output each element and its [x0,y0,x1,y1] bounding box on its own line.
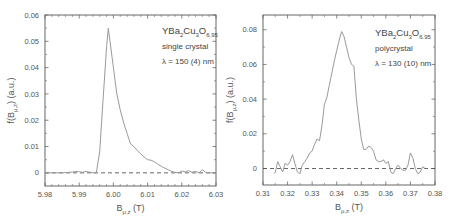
y-tick-label: 0.04 [242,95,257,104]
x-tick-label: 0.31 [256,189,271,198]
x-tick-label: 6.01 [140,190,155,199]
compound-formula: YBa2Cu3O6.95 [162,25,219,38]
penetration-depth-label: λ = 130 (10) nm [375,59,432,68]
x-tick-label: 6.02 [174,190,189,199]
x-tick-label: 0.35 [354,189,369,198]
chart-canvas: 5.985.996.006.016.026.0300.010.020.030.0… [0,0,455,219]
x-tick-label: 0.37 [403,189,418,198]
y-tick-label: 0.06 [24,11,39,20]
x-tick-label: 0.38 [428,189,443,198]
x-tick-label: 0.32 [280,189,295,198]
x-tick-label: 0.33 [305,189,320,198]
x-axis-label: Bμ,z (T) [335,202,363,214]
x-tick-label: 6.03 [209,190,224,199]
sample-type-label: single crystal [162,42,208,51]
y-tick-label: 0.08 [242,25,257,34]
y-tick-label: 0 [35,168,39,177]
y-tick-label: 0.05 [24,37,39,46]
x-tick-label: 6.00 [106,190,121,199]
penetration-depth-label: λ = 150 (4) nm [162,57,214,66]
y-tick-label: 0.01 [24,142,39,151]
y-tick-label: 0.02 [242,129,257,138]
y-tick-label: 0.04 [24,63,39,72]
sample-type-label: polycrystal [375,44,413,53]
plot-polycrystal: 0.310.320.330.340.350.360.370.3800.020.0… [225,15,442,214]
y-axis-label: f(Bμ,z) (a.u.) [6,77,18,123]
y-axis-label: f(Bμ,z) (a.u.) [225,77,237,123]
x-axis-label: Bμ,z (T) [116,203,144,215]
x-tick-label: 0.34 [329,189,344,198]
y-tick-label: 0.03 [24,90,39,99]
y-tick-label: 0.06 [242,60,257,69]
x-tick-label: 5.98 [38,190,53,199]
x-tick-label: 0.36 [379,189,394,198]
y-tick-label: 0.02 [24,116,39,125]
x-tick-label: 5.99 [72,190,87,199]
compound-formula: YBa2Cu3O6.95 [375,27,432,40]
y-tick-label: 0 [253,164,257,173]
plot-single-crystal: 5.985.996.006.016.026.0300.010.020.030.0… [6,11,223,215]
plot-frame [45,15,216,186]
